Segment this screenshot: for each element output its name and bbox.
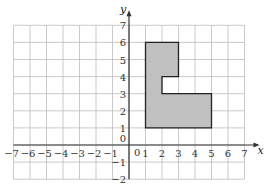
x-tick-label: −2: [87, 148, 102, 159]
x-tick-label: −7: [4, 148, 19, 159]
x-tick-label: 4: [192, 148, 198, 159]
y-tick-label: −2: [111, 174, 126, 185]
x-tick-label: −4: [54, 148, 69, 159]
x-tick-label: 3: [175, 148, 181, 159]
y-axis-label: y: [119, 3, 127, 16]
y-tick-label: 5: [120, 55, 126, 66]
y-tick-label: 1: [120, 123, 126, 134]
coordinate-grid: xy−7−6−5−4−3−2−112345670−2−101234567: [0, 0, 268, 192]
x-tick-label: −3: [70, 148, 85, 159]
x-tick-label: 7: [241, 148, 247, 159]
x-tick-label: 2: [159, 148, 165, 159]
y-tick-label: 6: [120, 37, 126, 48]
x-tick-label: −5: [37, 148, 52, 159]
x-axis-label: x: [258, 144, 265, 157]
y-axis-arrow-icon: [127, 10, 132, 16]
y-tick-label: 7: [120, 20, 126, 31]
y-tick-label: 3: [120, 89, 126, 100]
x-tick-label: 1: [142, 148, 148, 159]
x-tick-label: −6: [21, 148, 36, 159]
y-tick-label: 0: [120, 133, 126, 144]
origin-label: 0: [134, 147, 140, 158]
x-tick-label: 5: [208, 148, 214, 159]
y-tick-label: −1: [111, 157, 126, 168]
x-tick-label: 6: [225, 148, 231, 159]
y-tick-label: 2: [120, 106, 126, 117]
y-tick-label: 4: [120, 72, 126, 83]
